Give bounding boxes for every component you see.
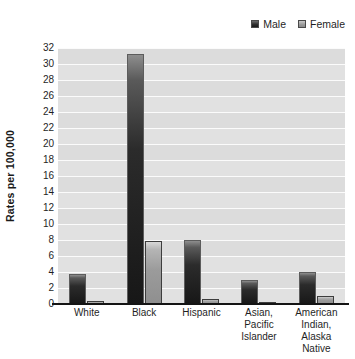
y-tick-label: 22 xyxy=(43,123,54,133)
y-tick-label: 8 xyxy=(48,235,54,245)
legend-item-female: Female xyxy=(298,18,345,30)
y-axis-tick-labels: 02468101214161820222426283032 xyxy=(22,48,54,304)
y-tick-label: 14 xyxy=(43,187,54,197)
chart-legend: Male Female xyxy=(251,18,345,30)
y-tick-label: 4 xyxy=(48,267,54,277)
y-tick-label: 12 xyxy=(43,203,54,213)
bar-female xyxy=(145,241,162,304)
y-axis-title-text: Rates per 100,000 xyxy=(4,130,16,222)
bar-male xyxy=(241,280,258,304)
x-axis-label: AmericanIndian,Alaska Native xyxy=(288,307,345,355)
x-axis-category-labels: WhiteBlackHispanicAsian,PacificIslanderA… xyxy=(58,307,345,355)
plot-area xyxy=(58,48,345,304)
bar-group xyxy=(58,48,115,304)
bar-male xyxy=(299,272,316,304)
y-tick-label: 30 xyxy=(43,59,54,69)
y-tick-label: 28 xyxy=(43,75,54,85)
x-axis-label: White xyxy=(58,307,115,355)
male-swatch-icon xyxy=(251,20,259,28)
clipped-caption xyxy=(0,351,355,359)
clipped-caption-text xyxy=(46,351,49,354)
bar-group xyxy=(115,48,172,304)
bar-male xyxy=(69,274,86,304)
x-axis-label: Black xyxy=(115,307,172,355)
legend-label-female: Female xyxy=(310,18,345,30)
bar-male xyxy=(184,240,201,304)
legend-label-male: Male xyxy=(263,18,286,30)
legend-item-male: Male xyxy=(251,18,286,30)
y-tick-label: 18 xyxy=(43,155,54,165)
y-axis-title: Rates per 100,000 xyxy=(2,48,18,304)
y-tick-label: 24 xyxy=(43,107,54,117)
y-tick-label: 26 xyxy=(43,91,54,101)
bar-male xyxy=(127,54,144,304)
x-axis-label: Hispanic xyxy=(173,307,230,355)
y-tick-label: 2 xyxy=(48,283,54,293)
y-tick-label: 10 xyxy=(43,219,54,229)
x-axis-line xyxy=(52,303,349,305)
bar-group xyxy=(173,48,230,304)
y-tick-label: 20 xyxy=(43,139,54,149)
bar-group xyxy=(230,48,287,304)
bar-group xyxy=(288,48,345,304)
female-swatch-icon xyxy=(298,20,306,28)
y-tick-label: 32 xyxy=(43,43,54,53)
bars-layer xyxy=(58,48,345,304)
x-axis-label: Asian,PacificIslander xyxy=(230,307,287,355)
y-tick-label: 16 xyxy=(43,171,54,181)
bar-chart: Male Female Rates per 100,000 0246810121… xyxy=(0,0,355,359)
y-tick-label: 6 xyxy=(48,251,54,261)
